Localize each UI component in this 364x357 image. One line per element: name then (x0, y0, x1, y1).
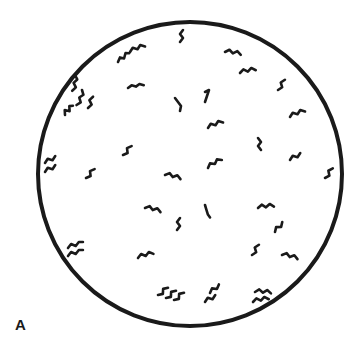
spiral-bacteria-group (44, 30, 333, 302)
spiral-bacterium (175, 98, 181, 111)
spiral-bacterium (258, 204, 274, 208)
spiral-bacterium (116, 52, 130, 62)
spiral-bacterium (174, 291, 184, 302)
spiral-bacterium (289, 109, 305, 117)
spiral-bacterium (88, 96, 93, 108)
spiral-bacterium (123, 145, 132, 157)
spiral-bacterium (252, 296, 268, 302)
spiral-bacterium (239, 67, 255, 73)
spiral-bacterium (273, 222, 284, 232)
spiral-bacterium (258, 138, 261, 150)
spiral-bacterium (77, 90, 85, 106)
spiral-bacterium (325, 167, 333, 179)
spiral-bacterium (165, 172, 181, 179)
spiral-bacterium (137, 251, 153, 258)
spiral-bacterium (180, 30, 183, 42)
panel-label: A (15, 316, 26, 333)
spiral-bacterium (209, 284, 221, 293)
spiral-bacterium (62, 104, 74, 115)
spiral-bacterium (86, 168, 95, 180)
spiral-bacterium (145, 205, 161, 212)
spiral-bacterium (205, 90, 209, 102)
microscope-field-circle (38, 22, 342, 326)
spiral-bacterium (158, 286, 168, 297)
spiral-bacterium (225, 49, 241, 55)
spiral-bacterium (204, 295, 216, 302)
spiral-bacterium (44, 156, 56, 163)
spiral-bacterium (129, 44, 145, 52)
spiral-bacterium (207, 157, 222, 168)
spiral-bacterium (202, 205, 214, 217)
spiral-bacterium (207, 120, 223, 128)
spiral-bacterium (278, 79, 285, 91)
spiral-bacterium (289, 153, 301, 160)
spiral-bacterium (282, 252, 298, 259)
spiral-bacterium (128, 83, 144, 88)
spiral-bacterium (67, 249, 83, 256)
spiral-bacterium (255, 289, 271, 293)
spiral-bacterium (44, 165, 56, 172)
microscope-field-figure (0, 0, 364, 357)
spiral-bacterium (177, 218, 180, 230)
spiral-bacterium (166, 289, 176, 300)
spiral-bacterium (67, 241, 83, 248)
spiral-bacterium (252, 244, 259, 256)
